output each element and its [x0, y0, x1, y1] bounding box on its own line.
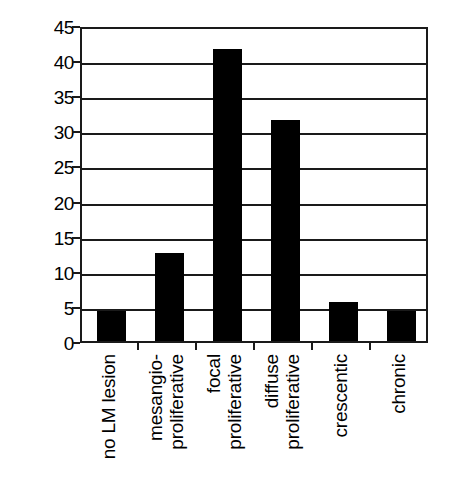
plot-area — [80, 27, 428, 343]
y-axis-tick-mark — [72, 272, 80, 274]
y-axis-tick-mark — [72, 26, 80, 28]
bar-chart-figure: Percent of specimens 051015202530354045 … — [0, 0, 456, 478]
y-axis-tick-mark — [72, 131, 80, 133]
bar — [155, 253, 184, 341]
bar — [97, 311, 126, 341]
x-axis-tick-mark — [253, 343, 255, 350]
y-axis-tick-mark — [72, 307, 80, 309]
bar — [271, 120, 300, 341]
y-axis-tick-mark — [72, 61, 80, 63]
x-axis-category-label-line: focal — [204, 354, 225, 393]
bar-series — [82, 29, 426, 341]
x-axis-category-label: diffuseproliferative — [254, 354, 312, 474]
x-axis-category-label: mesangio-proliferative — [138, 354, 196, 474]
x-axis-tick-mark — [137, 343, 139, 350]
x-axis-tick-mark — [311, 343, 313, 350]
y-axis-tick-mark — [72, 96, 80, 98]
bar — [329, 302, 358, 341]
y-axis-tick-mark — [72, 237, 80, 239]
x-axis-category-label: no LM lesion — [80, 354, 138, 474]
x-axis-category-label-line: proliferative — [225, 354, 246, 450]
x-axis-category-label: focalproliferative — [196, 354, 254, 474]
x-axis-tick-mark — [369, 343, 371, 350]
x-axis-category-label: chronic — [370, 354, 428, 474]
bar — [213, 49, 242, 341]
x-axis-category-label-line: no LM lesion — [99, 354, 120, 459]
x-axis-category-label-line: crescentic — [331, 354, 352, 438]
bar — [387, 311, 416, 341]
y-axis-tick-mark — [72, 202, 80, 204]
x-axis-category-label: crescentic — [312, 354, 370, 474]
x-axis-tick-mark — [195, 343, 197, 350]
x-axis-category-label-line: proliferative — [167, 354, 188, 450]
y-axis-tick-mark — [72, 342, 80, 344]
x-axis-category-label-line: proliferative — [283, 354, 304, 450]
x-axis-category-label-line: mesangio- — [146, 354, 167, 441]
x-axis-category-label-line: diffuse — [262, 354, 283, 408]
y-axis-tick-mark — [72, 166, 80, 168]
x-axis-category-label-line: chronic — [389, 354, 410, 414]
